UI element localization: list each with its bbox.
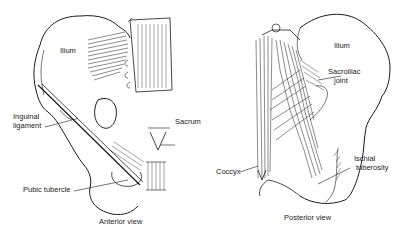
label-ilium-anterior: Ilium [60, 47, 76, 56]
label-ischial-tuberosity-line2: tuberosity [356, 164, 389, 173]
ischial-leader [318, 168, 350, 184]
label-sacrum: Sacrum [175, 118, 201, 127]
pelvis-illustration [0, 0, 402, 235]
caption-anterior-view: Anterior view [99, 217, 142, 226]
label-coccyx: Coccyx [216, 168, 241, 177]
caption-posterior-view: Posterior view [284, 213, 331, 222]
label-inguinal-ligament-line2: ligament [13, 122, 41, 131]
label-ilium-posterior: Ilium [334, 42, 350, 51]
label-pubic-tubercle: Pubic tubercle [23, 186, 71, 195]
label-sacroiliac-joint-line2: joint [334, 77, 348, 86]
posterior-pelvis-drawing [240, 14, 390, 203]
inguinal-leader [45, 120, 72, 127]
pelvic-ligaments-diagram: Ilium Inguinal ligament Sacrum Pubic tub… [0, 0, 402, 235]
coccyx-leader [240, 166, 258, 172]
